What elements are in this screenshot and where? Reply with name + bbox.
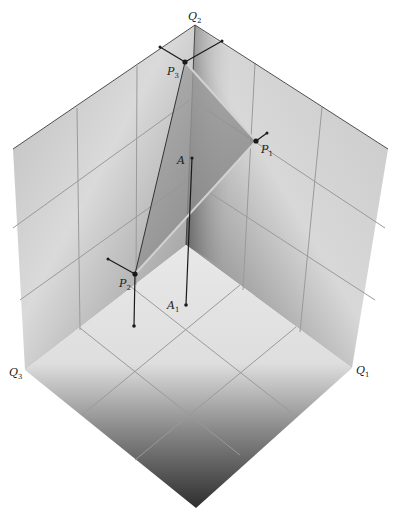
simplex-diagram: Q2 Q3 Q1 P3 P1 P2 A A1 xyxy=(0,0,396,515)
label-a: A xyxy=(176,154,185,167)
label-q1: Q1 xyxy=(356,364,370,379)
label-q3: Q3 xyxy=(9,366,23,381)
label-q2: Q2 xyxy=(188,10,202,25)
